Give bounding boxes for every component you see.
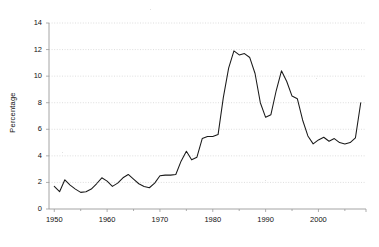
scan-speck [150, 9, 151, 10]
scan-speck [62, 152, 63, 153]
y-axis-tick-label: 14 [20, 18, 42, 27]
chart-container: Percentage 02468101214 19501960197019801… [0, 0, 379, 247]
data-series [54, 51, 360, 192]
x-axis-tick-label: 2000 [298, 215, 338, 224]
scan-speck [265, 180, 266, 181]
x-axis-tick-label: 1970 [140, 215, 180, 224]
y-axis-tick-label: 0 [20, 204, 42, 213]
y-axis-title: Percentage [8, 78, 17, 148]
x-axis-tick-label: 1990 [246, 215, 286, 224]
x-axis-tick-label: 1980 [193, 215, 233, 224]
y-axis-tick-label: 10 [20, 71, 42, 80]
gridlines [49, 23, 366, 182]
x-axis-tick-label: 1960 [87, 215, 127, 224]
plot-area [0, 0, 379, 247]
y-axis-tick-label: 6 [20, 124, 42, 133]
x-axis-tick-label: 1950 [34, 215, 74, 224]
y-axis-tick-label: 12 [20, 45, 42, 54]
scan-speck [316, 78, 317, 79]
y-axis-tick-label: 8 [20, 98, 42, 107]
y-axis-tick-label: 2 [20, 177, 42, 186]
y-axis-tick-label: 4 [20, 151, 42, 160]
axes [46, 23, 366, 212]
